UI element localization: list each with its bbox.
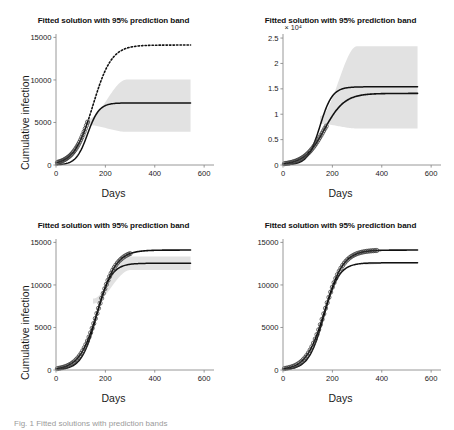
observed-data-curve: [283, 250, 377, 368]
x-tick-label: 600: [425, 374, 438, 383]
x-tick-label: 0: [54, 169, 58, 178]
y-tick-label: 2: [274, 59, 278, 68]
x-tick-label: 400: [375, 169, 388, 178]
x-tick-label: 200: [99, 169, 112, 178]
y-tick-label: 2.5: [268, 34, 279, 43]
plot-area: 00.511.522.5× 10⁴0200400600: [227, 2, 454, 204]
x-tick-label: 400: [148, 169, 161, 178]
y-tick-label: 10000: [30, 281, 51, 290]
chart-panel-top-right: 00.511.522.5× 10⁴0200400600 Fitted solut…: [227, 2, 454, 204]
y-tick-label: 1: [274, 110, 278, 119]
y-tick-label: 5000: [35, 118, 52, 127]
x-axis-label: Days: [0, 187, 227, 199]
panel-title: Fitted solution with 95% prediction band: [0, 221, 227, 230]
x-tick-label: 600: [198, 169, 211, 178]
y-axis-label: Cumulative infection: [19, 75, 31, 170]
x-tick-label: 400: [375, 374, 388, 383]
y-tick-label: 0.5: [268, 135, 279, 144]
x-tick-label: 0: [281, 169, 285, 178]
y-tick-label: 10000: [257, 281, 278, 290]
y-tick-label: 5000: [262, 323, 279, 332]
x-tick-label: 200: [326, 374, 339, 383]
chart-panel-bottom-right: 0500010000150000200400600 Fitted solutio…: [227, 207, 454, 409]
y-tick-label: 15000: [30, 33, 51, 42]
y-tick-label: 5000: [35, 323, 52, 332]
figure-panel-grid: 0500010000150000200400600 Fitted solutio…: [0, 0, 454, 430]
plot-area: 0500010000150000200400600: [0, 2, 227, 204]
x-tick-label: 600: [425, 169, 438, 178]
chart-panel-bottom-left: 0500010000150000200400600 Fitted solutio…: [0, 207, 227, 409]
chart-panel-top-left: 0500010000150000200400600 Fitted solutio…: [0, 2, 227, 204]
x-tick-label: 0: [54, 374, 58, 383]
y-tick-label: 15000: [257, 238, 278, 247]
y-tick-label: 0: [47, 161, 51, 170]
y-tick-label: 10000: [30, 76, 51, 85]
fitted-solution-curve: [56, 263, 191, 369]
plot-area: 0500010000150000200400600: [0, 207, 227, 409]
data-point-markers: [282, 124, 328, 166]
y-tick-label: 0: [274, 366, 278, 375]
prediction-band: [88, 80, 191, 132]
y-tick-label: 1.5: [268, 84, 279, 93]
x-axis-label: Days: [227, 187, 454, 199]
x-tick-label: 600: [198, 374, 211, 383]
observed-data-curve-extension: [130, 250, 190, 254]
x-tick-label: 200: [326, 169, 339, 178]
x-axis-label: Days: [0, 392, 227, 404]
x-tick-label: 400: [148, 374, 161, 383]
data-point-markers: [282, 248, 379, 370]
y-tick-label: 0: [274, 161, 278, 170]
x-tick-label: 200: [99, 374, 112, 383]
y-tick-label: 15000: [30, 238, 51, 247]
x-axis-label: Days: [227, 392, 454, 404]
fitted-solution-curve: [283, 263, 418, 370]
x-tick-label: 0: [281, 374, 285, 383]
panel-title: Fitted solution with 95% prediction band: [227, 16, 454, 25]
panel-title: Fitted solution with 95% prediction band: [0, 16, 227, 25]
plot-area: 0500010000150000200400600: [227, 207, 454, 409]
panel-title: Fitted solution with 95% prediction band: [227, 221, 454, 230]
y-tick-label: 0: [47, 366, 51, 375]
y-axis-label: Cumulative infection: [19, 285, 31, 380]
figure-caption: Fig. 1 Fitted solutions with prediction …: [14, 419, 444, 430]
